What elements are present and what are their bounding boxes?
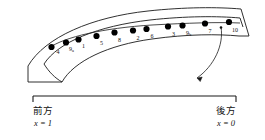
band-right-edge-inner (240, 18, 243, 27)
leader-origin-marker (220, 26, 223, 29)
dot-label-4: 4 (57, 49, 60, 55)
data-dot-9a[interactable] (63, 39, 69, 45)
caption-rear: 後方 x = 0 (198, 106, 254, 128)
data-dot-5[interactable] (93, 33, 99, 39)
dot-label-9b: 9b (186, 30, 191, 36)
dot-label-2: 2 (137, 35, 140, 41)
dot-label-10: 10 (232, 27, 238, 33)
dot-centerline (49, 23, 240, 48)
data-dot-4[interactable] (48, 44, 54, 50)
data-dot-2[interactable] (130, 27, 136, 33)
caption-rear-equation: x = 0 (198, 119, 254, 129)
caption-front: 前方 x = 1 (15, 106, 71, 128)
data-dot-1[interactable] (75, 36, 81, 42)
data-dot-6[interactable] (143, 26, 149, 32)
data-dot-8[interactable] (111, 29, 117, 35)
inner-band-left-edge (44, 64, 62, 82)
leader-arrowhead-icon (197, 77, 202, 82)
dot-label-3: 3 (172, 31, 175, 37)
inner-band-lower-edge (62, 35, 239, 82)
caption-front-equation: x = 1 (15, 119, 71, 129)
data-dot-3[interactable] (165, 23, 171, 29)
data-dot-9b[interactable] (179, 22, 185, 28)
dot-label-8: 8 (118, 37, 121, 43)
extent-bracket (33, 96, 236, 102)
dot-label-7: 7 (209, 28, 212, 34)
data-dot-10[interactable] (226, 19, 232, 25)
caption-front-word: 前方 (15, 106, 71, 117)
band-right-edge-outer (241, 9, 249, 36)
data-dot-7[interactable] (202, 20, 208, 26)
dot-label-6: 6 (151, 33, 154, 39)
dot-label-9a: 9a (69, 46, 74, 52)
dot-label-1: 1 (82, 43, 85, 49)
dot-label-5: 5 (100, 40, 103, 46)
caption-rear-word: 後方 (198, 106, 254, 117)
